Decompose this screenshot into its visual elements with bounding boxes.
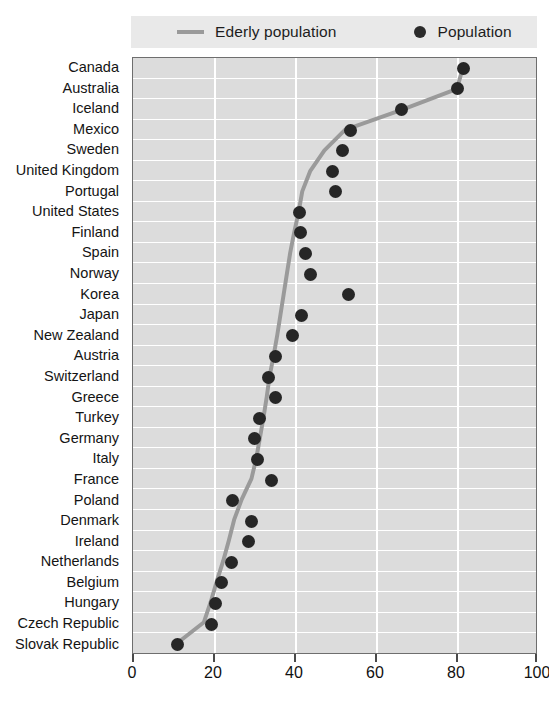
x-axis-tick-label: 60 (366, 664, 384, 682)
y-axis-label: Denmark (0, 510, 126, 531)
legend-item-population: Population (414, 23, 511, 41)
chart-legend: Ederly population Population (131, 16, 537, 48)
data-point-marker (262, 371, 275, 384)
y-axis-label: Japan (0, 304, 126, 325)
data-point-marker (293, 206, 306, 219)
y-axis-label: Portugal (0, 181, 126, 202)
x-axis-tick-label: 40 (285, 664, 303, 682)
x-axis-tick-label: 80 (447, 664, 465, 682)
y-axis-label: Belgium (0, 572, 126, 593)
y-axis-label: Australia (0, 78, 126, 99)
data-point-marker (342, 288, 355, 301)
elderly-population-line-series (133, 58, 536, 653)
x-axis-tick (132, 654, 134, 662)
data-point-marker (265, 474, 278, 487)
x-axis-tick (294, 654, 296, 662)
x-axis-tick (375, 654, 377, 662)
y-axis-label: Norway (0, 263, 126, 284)
y-axis-label: France (0, 469, 126, 490)
elderly-population-line (178, 68, 463, 642)
data-point-marker (295, 309, 308, 322)
y-axis-label: Poland (0, 489, 126, 510)
legend-label-population: Population (437, 23, 511, 41)
chart-page: Ederly population Population CanadaAustr… (0, 0, 549, 704)
data-point-marker (226, 494, 239, 507)
y-axis-label: Germany (0, 428, 126, 449)
y-axis-label: Spain (0, 242, 126, 263)
legend-item-elderly-population: Ederly population (177, 23, 336, 41)
x-axis-tick-label: 20 (204, 664, 222, 682)
y-axis-label: Korea (0, 284, 126, 305)
y-axis-label: Czech Republic (0, 613, 126, 634)
data-point-marker (344, 124, 357, 137)
plot-area (132, 57, 537, 654)
line-swatch-icon (177, 30, 204, 34)
y-axis-label: Switzerland (0, 366, 126, 387)
data-point-marker (304, 268, 317, 281)
y-axis-label: Mexico (0, 119, 126, 140)
y-axis-label: United States (0, 201, 126, 222)
data-point-marker (326, 165, 339, 178)
data-point-marker (395, 103, 408, 116)
y-axis-label: New Zealand (0, 325, 126, 346)
x-axis-tick (213, 654, 215, 662)
x-axis-tick-label: 100 (524, 664, 549, 682)
y-axis-label: Slovak Republic (0, 634, 126, 655)
data-point-marker (225, 556, 238, 569)
y-axis-label: Finland (0, 222, 126, 243)
data-point-marker (205, 618, 218, 631)
legend-label-elderly-population: Ederly population (215, 23, 336, 41)
data-point-marker (299, 247, 312, 260)
y-axis-label: Sweden (0, 139, 126, 160)
x-axis-tick (535, 654, 537, 662)
y-axis-label: Turkey (0, 407, 126, 428)
y-axis-label: Hungary (0, 592, 126, 613)
y-axis-label: Italy (0, 448, 126, 469)
y-axis-label: Ireland (0, 531, 126, 552)
x-axis-tick (456, 654, 458, 662)
data-point-marker (269, 350, 282, 363)
y-axis-label: United Kingdom (0, 160, 126, 181)
dot-swatch-icon (414, 26, 426, 38)
data-point-marker (457, 62, 470, 75)
data-point-marker (253, 412, 266, 425)
data-point-marker (245, 515, 258, 528)
y-axis-label: Netherlands (0, 551, 126, 572)
x-axis-tick-label: 0 (128, 664, 137, 682)
y-axis-category-labels: CanadaAustraliaIcelandMexicoSwedenUnited… (0, 57, 126, 654)
y-axis-label: Greece (0, 387, 126, 408)
y-axis-label: Austria (0, 345, 126, 366)
x-axis-tick-labels: 020406080100 (0, 664, 549, 692)
y-axis-label: Iceland (0, 98, 126, 119)
y-axis-label: Canada (0, 57, 126, 78)
